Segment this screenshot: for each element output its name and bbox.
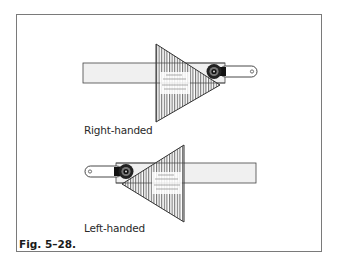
diagram-canvas [0, 0, 341, 268]
right-handed-label: Right-handed [84, 124, 153, 136]
left-handed-assembly [85, 145, 256, 222]
left-handed-label: Left-handed [84, 222, 145, 234]
figure-caption: Fig. 5–28. [19, 238, 76, 250]
triangle-label-block [152, 172, 182, 194]
right-handed-assembly [83, 44, 257, 122]
triangle-label-block [160, 72, 190, 94]
